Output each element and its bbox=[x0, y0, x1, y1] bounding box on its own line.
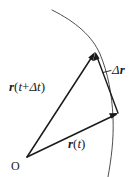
label-origin: O bbox=[11, 160, 20, 172]
label-position-now-paren-close: ) bbox=[81, 136, 85, 151]
label-displacement-vector: Δr bbox=[112, 63, 125, 76]
label-displacement-delta: Δ bbox=[112, 62, 120, 77]
delta-r-leader-line bbox=[103, 71, 111, 73]
label-position-vector-later: r(t+Δt) bbox=[9, 80, 45, 93]
trajectory-curve bbox=[52, 10, 113, 177]
label-position-later-paren-close: ) bbox=[41, 79, 45, 94]
vector-diagram-figure: r(t+Δt) r(t) Δr O bbox=[0, 0, 135, 177]
label-displacement-symbol: r bbox=[120, 62, 125, 77]
label-position-later-delta: Δ bbox=[29, 79, 37, 94]
label-position-vector-now: r(t) bbox=[68, 137, 85, 150]
